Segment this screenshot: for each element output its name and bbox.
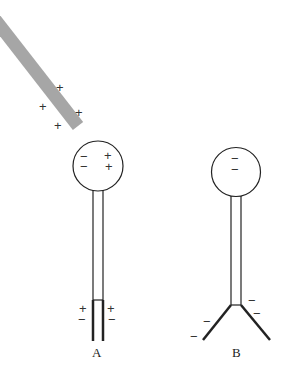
leaf-a-charge: − (108, 312, 116, 327)
rod-charge: + (54, 118, 62, 133)
label-b: B (232, 345, 241, 360)
leaf-b-charge: − (203, 314, 211, 329)
knob-a-charge: − (80, 159, 88, 174)
leaf-a-charge: − (78, 312, 86, 327)
rod-charge: + (75, 105, 83, 120)
rod-charge: + (39, 99, 47, 114)
leaf-b-charge: − (190, 329, 198, 344)
electroscope-a: − − + + + − + − A (73, 141, 123, 360)
knob-a-charge: + (105, 159, 113, 174)
electroscope-diagram: + + + + − − + + + − + − A − − − − − − (0, 0, 285, 372)
electroscope-b: − − − − − − B (190, 148, 270, 361)
knob-b-charge: − (231, 162, 239, 177)
rod-charge: + (56, 80, 64, 95)
leaf-b-charge: − (253, 306, 261, 321)
label-a: A (92, 345, 102, 360)
